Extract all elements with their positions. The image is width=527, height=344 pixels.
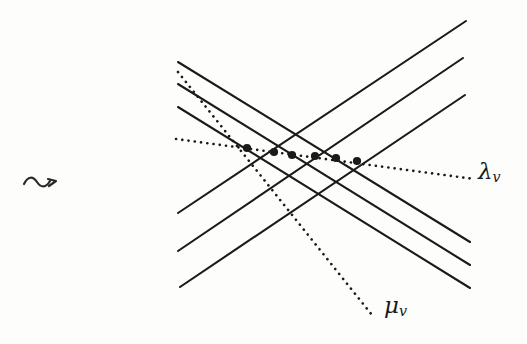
squiggly-arrow-icon	[22, 168, 64, 196]
lambda-v-dotted	[176, 139, 474, 179]
lambda-base: λ	[478, 158, 493, 184]
mu-subscript: v	[399, 303, 407, 319]
mu-v-label: μv	[384, 294, 407, 318]
solid-line-group	[178, 21, 470, 288]
dotted-line-group	[176, 72, 474, 315]
lambda-subscript: v	[493, 169, 501, 185]
figure-canvas: λv μv	[0, 0, 527, 344]
line-arrangement-svg	[0, 0, 527, 344]
descending-solid-2	[178, 84, 470, 265]
mu-base: μ	[384, 292, 399, 318]
lambda-v-label: λv	[478, 160, 501, 184]
intersection-dot	[270, 148, 278, 156]
ascending-solid-2	[178, 58, 463, 251]
intersection-dot	[288, 151, 296, 159]
intersection-dot	[353, 157, 361, 165]
intersection-dot	[332, 154, 340, 162]
descending-solid-3	[178, 107, 470, 288]
ascending-solid-1	[178, 21, 466, 213]
intersection-dot	[311, 152, 319, 160]
intersection-dot	[243, 144, 251, 152]
